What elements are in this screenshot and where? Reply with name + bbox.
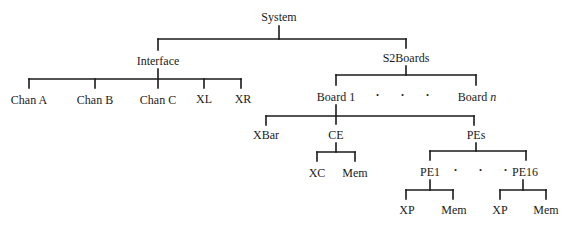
node-xr: XR [235, 93, 252, 105]
node-chan-a: Chan A [11, 94, 47, 106]
board-n-variable: n [490, 90, 496, 104]
node-xbar: XBar [253, 129, 279, 141]
node-pe1: PE1 [420, 166, 440, 178]
node-xc: XC [309, 167, 326, 179]
node-pe16: PE16 [512, 166, 538, 178]
node-chan-c: Chan C [140, 94, 176, 106]
node-board-1: Board 1 [317, 91, 355, 103]
node-ce: CE [328, 129, 343, 141]
node-s2boards: S2Boards [383, 52, 430, 64]
hierarchy-diagram: System Interface Chan A Chan B Chan C XL… [0, 0, 569, 227]
node-pe16-xp: XP [492, 204, 507, 216]
node-pe16-mem: Mem [533, 204, 558, 216]
boards-ellipsis: · · · [375, 88, 438, 103]
node-board-n: Board n [458, 91, 496, 103]
node-interface: Interface [137, 55, 180, 67]
node-chan-b: Chan B [77, 94, 113, 106]
node-pe1-xp: XP [399, 204, 414, 216]
node-system: System [261, 11, 296, 23]
connector-lines [0, 0, 569, 227]
pes-ellipsis: · · · [453, 163, 516, 178]
node-pe1-mem: Mem [441, 204, 466, 216]
node-ce-mem: Mem [342, 167, 367, 179]
board-n-prefix: Board [458, 90, 490, 104]
node-xl: XL [196, 93, 212, 105]
node-pes: PEs [467, 129, 486, 141]
